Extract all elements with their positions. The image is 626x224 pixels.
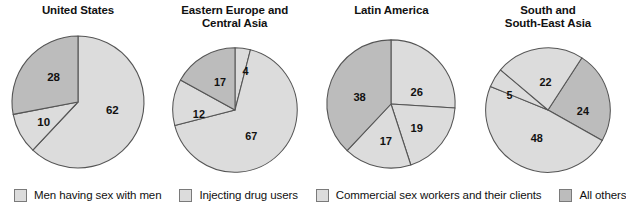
legend-swatch-icon [14, 189, 27, 202]
legend-item-label: Commercial sex workers and their clients [336, 189, 542, 202]
pie-slice-value-label: 19 [411, 122, 423, 134]
chart-united-states: United States 621028 [0, 0, 156, 182]
pie-slice-value-label: 5 [506, 89, 512, 101]
legend-item-all-others: All others [559, 184, 626, 206]
pie-svg-latin-america: 26191738 [323, 36, 459, 172]
pie-chart-figure: United States 621028 Eastern Europe and … [0, 0, 626, 224]
pie-svg-united-states: 621028 [8, 32, 148, 172]
legend-item-label: All others [579, 189, 626, 202]
legend-item-injecting-drug-users: Injecting drug users [179, 184, 297, 206]
pie-slice-value-label: 38 [354, 91, 366, 103]
charts-row: United States 621028 Eastern Europe and … [0, 0, 626, 182]
legend-swatch-icon [179, 189, 192, 202]
pie-container: 26191738 [323, 36, 459, 172]
chart-eastern-europe-central-asia: Eastern Europe and Central Asia 4671217 [157, 0, 313, 182]
pie-slice-value-label: 4 [242, 65, 248, 77]
chart-title: Eastern Europe and Central Asia [181, 4, 288, 30]
pie-slice-value-label: 12 [193, 108, 205, 120]
legend-item-commercial-sex-workers: Commercial sex workers and their clients [316, 184, 542, 206]
pie-slice [12, 36, 78, 114]
chart-latin-america: Latin America 26191738 [313, 0, 469, 182]
pie-container: 621028 [8, 32, 148, 172]
pie-slice-value-label: 62 [106, 104, 119, 116]
pie-svg-south-asia: 2448522 [482, 44, 614, 176]
legend: Men having sex with men Injecting drug u… [0, 184, 626, 224]
pie-slice-value-label: 10 [37, 116, 50, 128]
pie-slice [391, 40, 455, 108]
pie-container: 2448522 [482, 44, 614, 176]
pie-svg-eastern-europe: 4671217 [169, 44, 301, 176]
pie-slice-value-label: 17 [380, 135, 392, 147]
legend-item-men-having-sex-with-men: Men having sex with men [14, 184, 161, 206]
chart-title: Latin America [354, 4, 428, 17]
legend-swatch-icon [559, 189, 572, 202]
pie-slice-value-label: 48 [531, 132, 543, 144]
pie-slice-value-label: 24 [577, 105, 589, 117]
pie-slice-value-label: 28 [47, 71, 60, 83]
pie-slice-value-label: 67 [245, 130, 257, 142]
pie-slice-value-label: 17 [214, 76, 226, 88]
chart-south-and-south-east-asia: South and South-East Asia 2448522 [470, 0, 626, 182]
pie-slice-value-label: 26 [411, 86, 423, 98]
legend-item-label: Men having sex with men [34, 189, 161, 202]
pie-container: 4671217 [169, 44, 301, 176]
legend-swatch-icon [316, 189, 329, 202]
legend-item-label: Injecting drug users [199, 189, 297, 202]
chart-title: United States [42, 4, 114, 17]
pie-slice-value-label: 22 [539, 76, 551, 88]
chart-title: South and South-East Asia [505, 4, 591, 30]
